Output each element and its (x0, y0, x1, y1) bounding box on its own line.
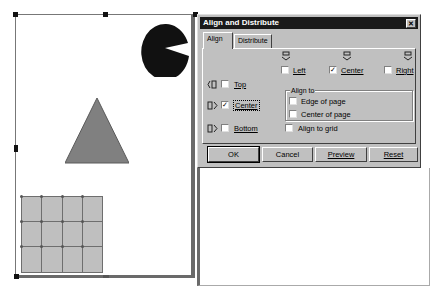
right-checkbox[interactable] (384, 66, 392, 74)
preview-label: Preview (328, 150, 355, 159)
align-tab-panel: Left ✓ Center Right Top ✓ Center Bottom … (202, 48, 416, 144)
reset-button[interactable]: Reset (369, 147, 418, 162)
preview-button[interactable]: Preview (315, 147, 367, 162)
left-checkbox[interactable] (281, 66, 289, 74)
align-to-legend: Align to (290, 86, 315, 95)
center-v-label: Center (233, 100, 260, 111)
top-checkbox[interactable] (221, 80, 229, 88)
center-of-page-checkbox[interactable] (289, 110, 297, 118)
align-to-grid-checkbox[interactable] (285, 124, 293, 132)
align-right-icon (403, 51, 413, 61)
center-v-checkbox[interactable]: ✓ (221, 101, 229, 109)
align-left-icon (281, 51, 291, 61)
selection-handle-top-left[interactable] (13, 12, 18, 17)
bottom-checkbox[interactable] (221, 124, 229, 132)
align-bottom-icon (207, 124, 218, 133)
tab-align[interactable]: Align (203, 32, 233, 49)
cancel-label: Cancel (276, 150, 299, 159)
dialog-titlebar[interactable]: Align and Distribute ✕ (200, 17, 418, 29)
close-icon: ✕ (408, 20, 414, 27)
canvas-area[interactable] (197, 168, 430, 286)
selection-handle-bottom-center[interactable] (103, 275, 109, 278)
align-distribute-dialog: Align and Distribute ✕ Align Distribute … (197, 14, 421, 168)
edge-of-page-label: Edge of page (301, 97, 346, 106)
ok-button[interactable]: OK (208, 147, 259, 162)
grid-shape[interactable] (21, 196, 103, 273)
pie-shape[interactable] (141, 20, 189, 77)
top-label: Top (234, 80, 246, 89)
align-to-grid-label: Align to grid (298, 124, 338, 133)
reset-label: Reset (384, 150, 404, 159)
ok-label: OK (228, 150, 239, 159)
edge-of-page-checkbox[interactable] (289, 97, 297, 105)
triangle-shape[interactable] (65, 98, 129, 164)
align-center-h-icon (342, 51, 352, 61)
left-label: Left (293, 66, 306, 75)
align-top-icon (207, 80, 218, 89)
tab-distribute-label: Distribute (238, 37, 268, 44)
align-center-v-icon (207, 101, 218, 110)
tab-align-label: Align (207, 35, 223, 42)
bottom-label: Bottom (234, 124, 258, 133)
close-button[interactable]: ✕ (406, 19, 416, 28)
tab-distribute[interactable]: Distribute (234, 34, 272, 48)
center-of-page-label: Center of page (301, 110, 351, 119)
selection-handle-bottom-left[interactable] (14, 274, 19, 279)
right-label: Right (396, 66, 414, 75)
selection-handle-top-center[interactable] (103, 12, 108, 17)
center-h-checkbox[interactable]: ✓ (329, 66, 337, 74)
selection-handle-middle-left[interactable] (14, 145, 18, 152)
dialog-title: Align and Distribute (203, 18, 279, 27)
align-to-group: Align to Edge of page Center of page (285, 90, 413, 121)
cancel-button[interactable]: Cancel (262, 147, 313, 162)
center-h-label: Center (341, 66, 364, 75)
